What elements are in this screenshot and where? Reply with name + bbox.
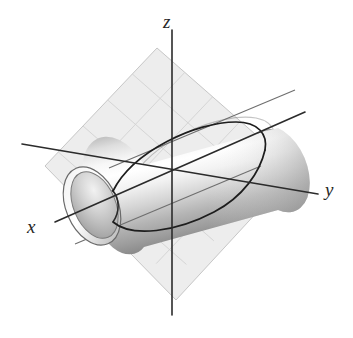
y-axis-label: y <box>325 180 333 199</box>
x-axis-label: x <box>27 217 35 236</box>
figure-canvas: z x y <box>0 0 353 338</box>
cylinder-plane-illustration <box>0 0 353 338</box>
z-axis-label: z <box>163 12 170 31</box>
